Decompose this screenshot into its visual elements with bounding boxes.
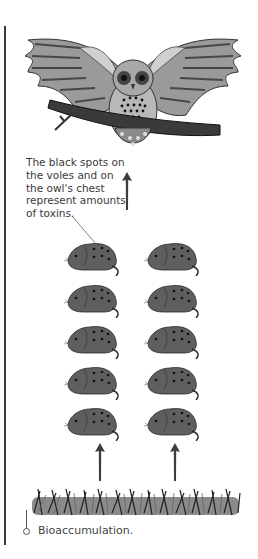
left-margin-rule	[4, 26, 6, 545]
vole-9	[64, 403, 126, 441]
grass-illustration	[28, 485, 243, 520]
vole-10	[144, 403, 206, 441]
vole-5	[64, 321, 126, 359]
caption-marker-dot-icon	[23, 528, 30, 535]
arrow-voles-to-owl-icon	[122, 172, 132, 210]
vole-4	[144, 280, 206, 318]
caption-marker-line	[26, 510, 27, 529]
owl-illustration	[20, 20, 245, 155]
arrow-grass-to-left-voles-icon	[95, 443, 105, 481]
vole-7	[64, 362, 126, 400]
vole-8	[144, 362, 206, 400]
arrow-grass-to-right-voles-icon	[170, 443, 180, 481]
toxin-annotation: The black spots on the voles and on the …	[26, 156, 126, 220]
vole-6	[144, 321, 206, 359]
vole-1	[64, 238, 126, 276]
vole-2	[144, 238, 206, 276]
figure-caption: Bioaccumulation.	[38, 524, 133, 537]
vole-3	[64, 280, 126, 318]
